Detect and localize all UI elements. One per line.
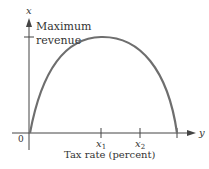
vertical-axis-label: x <box>26 5 32 16</box>
chart-svg: x y 0 Maximum revenue x1 x2 Tax rate (pe… <box>0 0 209 169</box>
revenue-curve <box>30 37 177 133</box>
vertical-axis-arrow-icon <box>26 18 32 27</box>
annotation-line2: revenue <box>36 34 81 47</box>
origin-label: 0 <box>18 134 24 144</box>
x-axis-title: Tax rate (percent) <box>64 149 156 160</box>
horizontal-axis-label: y <box>198 127 205 138</box>
annotation-line1: Maximum <box>36 20 92 33</box>
laffer-curve-figure: x y 0 Maximum revenue x1 x2 Tax rate (pe… <box>0 0 209 169</box>
horizontal-axis-arrow-icon <box>187 130 196 136</box>
